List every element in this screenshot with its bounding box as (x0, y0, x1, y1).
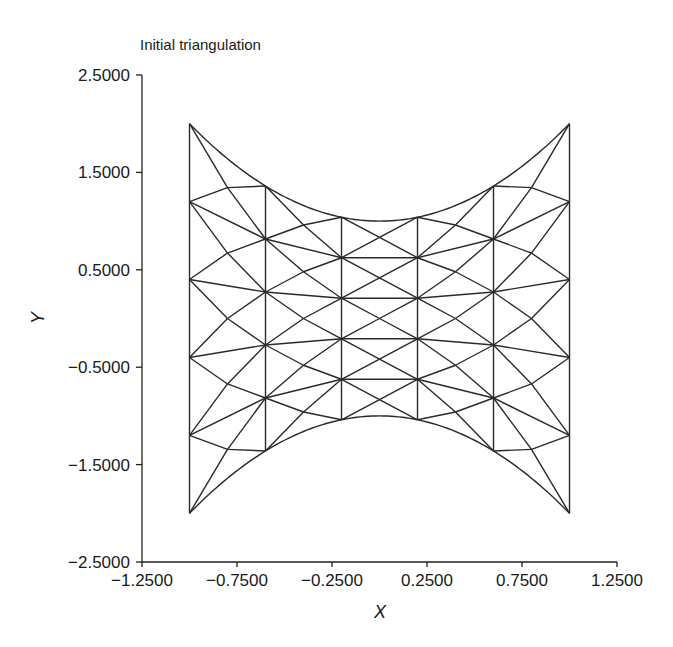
mesh-edge (304, 339, 342, 365)
boundary-bottom-curve (190, 416, 570, 513)
mesh-edge (418, 292, 494, 298)
mesh-edge (228, 239, 266, 253)
mesh-edge (304, 365, 342, 379)
mesh-edge (190, 188, 228, 202)
mesh-edge (228, 319, 266, 345)
mesh-edge (494, 280, 570, 292)
y-tick-label: −0.5000 (68, 358, 130, 377)
mesh-edge (532, 188, 570, 202)
mesh-edge (266, 345, 304, 365)
x-axis-label: X (373, 602, 387, 622)
mesh-edge (456, 319, 494, 345)
mesh-edge (190, 345, 266, 357)
mesh-edge (456, 272, 494, 292)
x-tick-label: −0.2500 (301, 571, 363, 590)
mesh-edge (380, 278, 418, 298)
mesh-edge (190, 384, 228, 435)
mesh-edge (266, 292, 304, 318)
mesh-edge (494, 398, 532, 449)
x-axis: −1.2500−0.7500−0.25000.25000.75001.2500 (111, 562, 643, 590)
mesh-edge (190, 435, 228, 449)
mesh-edge (266, 186, 304, 225)
mesh-edge (380, 298, 418, 318)
mesh-edge (228, 186, 266, 188)
chart: Initial triangulation 2.50001.50000.5000… (0, 0, 673, 647)
mesh-edge (532, 253, 570, 279)
mesh-edge (266, 319, 304, 345)
mesh-edge (532, 449, 570, 513)
mesh-edge (228, 449, 266, 451)
mesh-edge (228, 398, 266, 449)
mesh-edge (494, 384, 532, 398)
mesh-edge (494, 202, 570, 239)
mesh-edge (266, 339, 342, 345)
triangulation-mesh (190, 124, 570, 514)
mesh-edge (494, 345, 570, 357)
mesh-edge (494, 398, 570, 435)
mesh-edge (304, 217, 342, 225)
mesh-edge (190, 357, 228, 383)
mesh-edge (494, 188, 532, 239)
y-tick-label: −1.5000 (68, 456, 130, 475)
mesh-edge (266, 272, 304, 292)
mesh-edge (190, 202, 228, 253)
mesh-edge (190, 202, 266, 239)
mesh-edge (190, 124, 228, 188)
mesh-edge (304, 298, 342, 318)
mesh-edge (532, 202, 570, 253)
y-axis-label: Y (28, 310, 48, 324)
x-tick-label: −1.2500 (111, 571, 173, 590)
mesh-edge (342, 278, 380, 298)
mesh-edge (456, 186, 494, 225)
mesh-edge (304, 258, 342, 272)
mesh-edge (418, 298, 456, 318)
x-tick-label: 0.2500 (401, 571, 453, 590)
mesh-edge (418, 339, 494, 345)
mesh-edge (342, 359, 380, 379)
mesh-edge (342, 339, 380, 359)
mesh-edge (494, 186, 532, 188)
x-tick-label: 0.7500 (496, 571, 548, 590)
mesh-edge (532, 124, 570, 188)
mesh-edge (494, 292, 532, 318)
mesh-edge (380, 359, 418, 379)
y-axis: 2.50001.50000.5000−0.5000−1.5000−2.5000 (68, 66, 142, 572)
mesh-edge (190, 280, 266, 292)
mesh-edge (380, 379, 418, 399)
y-tick-label: −2.5000 (68, 553, 130, 572)
mesh-edge (190, 449, 228, 513)
mesh-edge (380, 319, 418, 339)
mesh-edge (190, 253, 228, 279)
mesh-edge (228, 384, 266, 398)
mesh-edge (418, 412, 456, 420)
mesh-edge (494, 319, 532, 345)
mesh-edge (532, 384, 570, 435)
mesh-edge (266, 292, 342, 298)
mesh-edge (380, 339, 418, 359)
mesh-edge (266, 412, 304, 451)
mesh-edge (190, 398, 266, 435)
mesh-edge (494, 449, 532, 451)
mesh-edge (342, 319, 380, 339)
mesh-edge (380, 258, 418, 278)
mesh-edge (418, 339, 456, 365)
mesh-edge (418, 272, 456, 298)
y-tick-label: 0.5000 (78, 261, 130, 280)
mesh-edge (342, 258, 380, 278)
mesh-edge (494, 239, 532, 253)
mesh-edge (342, 237, 380, 257)
mesh-edge (304, 412, 342, 420)
mesh-edge (380, 237, 418, 257)
mesh-edge (342, 298, 380, 318)
mesh-edge (456, 412, 494, 451)
boundary-top-curve (190, 124, 570, 221)
mesh-edge (418, 217, 456, 225)
mesh-edge (418, 258, 456, 272)
mesh-edge (418, 319, 456, 339)
mesh-edge (456, 345, 494, 365)
mesh-edge (266, 225, 304, 239)
mesh-edge (532, 435, 570, 449)
mesh-edge (228, 292, 266, 318)
x-tick-label: −0.7500 (206, 571, 268, 590)
mesh-edge (304, 319, 342, 339)
